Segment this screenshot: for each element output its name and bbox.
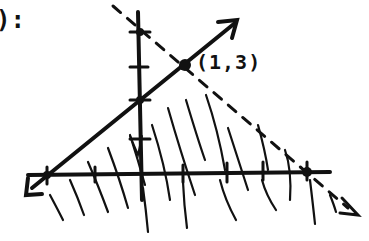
shading-hatch: [50, 95, 336, 232]
solid-boundary-line: [32, 23, 235, 188]
point-label: (1,3): [196, 50, 261, 74]
x-axis: [28, 172, 330, 175]
header-fragment: ):: [0, 6, 25, 34]
point-1-3: [179, 59, 191, 71]
y-axis: [138, 12, 142, 200]
arrow-dashed-icon: [340, 198, 358, 215]
graph-canvas: [0, 0, 369, 241]
